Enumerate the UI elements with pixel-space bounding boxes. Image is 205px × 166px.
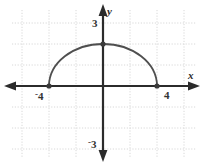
y-axis-tick-label-pos3: 3 xyxy=(92,18,98,29)
y-axis-name-label: y xyxy=(107,6,112,17)
point-right-endpoint xyxy=(154,83,159,88)
y-axis-tick-value-neg3: 3 xyxy=(91,138,97,150)
point-left-endpoint xyxy=(46,83,51,88)
y-axis-tick-label-neg3: -3 xyxy=(88,138,97,150)
x-axis-tick-label-neg4: -4 xyxy=(35,90,44,102)
graph-canvas xyxy=(0,0,205,166)
coordinate-plane-figure: -4 4 3 -3 x y xyxy=(0,0,205,166)
x-axis-tick-label-pos4: 4 xyxy=(164,90,170,101)
x-axis-arrow-right xyxy=(188,82,200,91)
x-axis-name-label: x xyxy=(188,70,194,81)
x-axis-tick-value-neg4: 4 xyxy=(38,90,44,102)
x-axis-arrow-left xyxy=(4,82,16,91)
point-vertex xyxy=(100,41,105,46)
y-axis xyxy=(99,4,108,162)
y-axis-arrow-down xyxy=(99,150,108,162)
